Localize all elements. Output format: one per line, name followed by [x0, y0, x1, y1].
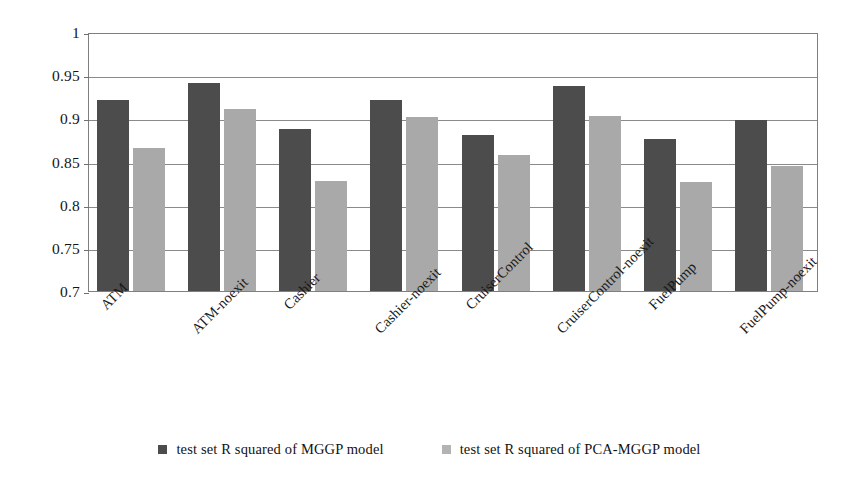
bar: [553, 86, 585, 291]
bar-group: [89, 34, 180, 291]
bar: [188, 83, 220, 291]
bar: [133, 148, 165, 291]
bar-group: [272, 34, 363, 291]
y-tick-label: 0.7: [28, 284, 80, 300]
chart-legend: test set R squared of MGGP modeltest set…: [0, 442, 859, 457]
legend-item: test set R squared of PCA-MGGP model: [442, 442, 701, 457]
bar: [644, 139, 676, 291]
bars-layer: [89, 34, 817, 291]
bar: [279, 129, 311, 291]
legend-item: test set R squared of MGGP model: [158, 442, 383, 457]
bar-group: [363, 34, 454, 291]
legend-label: test set R squared of MGGP model: [176, 442, 383, 457]
bar: [224, 109, 256, 291]
bar: [315, 181, 347, 291]
legend-swatch-dark: [158, 445, 167, 454]
bar: [735, 120, 767, 291]
y-tick-label: 0.85: [28, 155, 80, 171]
plot-area: [88, 33, 818, 292]
bar-group: [180, 34, 271, 291]
bar-group: [728, 34, 819, 291]
x-axis: ATMATM-noexitCashierCashier-noexitCruise…: [88, 292, 818, 422]
bar-group: [637, 34, 728, 291]
legend-swatch-light: [442, 445, 451, 454]
bar: [370, 100, 402, 291]
y-tick-label: 0.75: [28, 241, 80, 257]
legend-label: test set R squared of PCA-MGGP model: [460, 442, 701, 457]
y-axis: 10.950.90.850.80.750.7: [28, 33, 80, 292]
y-tick-label: 1: [28, 25, 80, 41]
y-tick-label: 0.9: [28, 112, 80, 128]
y-tick-label: 0.95: [28, 68, 80, 84]
bar: [97, 100, 129, 291]
bar-chart: 10.950.90.850.80.750.7 ATMATM-noexitCash…: [0, 0, 859, 496]
bar: [462, 135, 494, 291]
bar-group: [545, 34, 636, 291]
y-tick-label: 0.8: [28, 198, 80, 214]
